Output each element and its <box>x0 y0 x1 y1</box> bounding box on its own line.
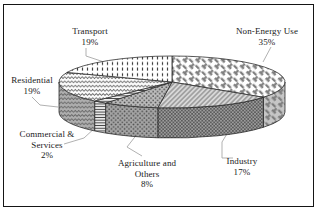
slice-rim-agriculture-and-others <box>106 103 158 138</box>
leader-line-transport <box>86 48 104 62</box>
leader-line-residential <box>32 97 58 107</box>
slice-rim-commercial-services <box>95 101 106 133</box>
pie-slices <box>59 56 285 138</box>
leader-line-non-energy-use <box>263 47 271 62</box>
pie-chart-svg <box>0 0 318 211</box>
figure: Non-Energy Use35%Industry17%Agriculture … <box>0 0 318 211</box>
